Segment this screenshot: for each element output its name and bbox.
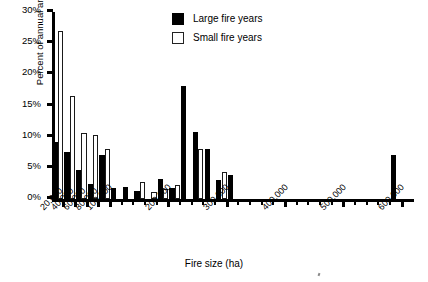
bar-small-240,000-260,000 <box>198 149 203 199</box>
bar-small-140,000-160,000 <box>140 182 145 199</box>
bar-small-20,000-40,000 <box>70 96 75 199</box>
fire-size-histogram: Percent of annual area burned 0%5%10%15%… <box>0 0 428 282</box>
y-tick-label: 15% <box>22 99 41 108</box>
x-axis-title: Fire size (ha) <box>0 258 428 269</box>
y-tick-label: 0% <box>27 192 41 201</box>
y-tick-10%: 10% <box>47 134 53 137</box>
bar-small-200,000-220,000 <box>175 185 180 199</box>
y-tick-20%: 20% <box>47 71 53 74</box>
y-tick-30%: 30% <box>47 9 53 12</box>
y-tick-15%: 15% <box>47 103 53 106</box>
y-axis-title-container: Percent of annual area burned <box>0 0 18 200</box>
bar-large-140,000-160,000 <box>134 191 139 199</box>
bar-large-120,000-140,000 <box>123 187 128 199</box>
x-tick-label-group: 20,00040,00060,00080,000100,000200,00030… <box>52 205 414 253</box>
x-axis-line <box>52 199 414 202</box>
legend-item-large-fire-years: Large fire years <box>172 9 262 28</box>
small-fire-swatch-icon <box>172 32 184 44</box>
large-fire-swatch-icon <box>172 13 184 25</box>
legend-label-small: Small fire years <box>193 32 262 44</box>
y-tick-label: 20% <box>22 67 41 76</box>
y-tick-label: 10% <box>22 130 41 139</box>
scan-artifact-speck <box>318 273 321 277</box>
bar-large-220,000-240,000 <box>181 86 186 199</box>
y-tick-label: 25% <box>22 36 41 45</box>
y-tick-label: 5% <box>27 161 41 170</box>
bar-small-0-20,000 <box>58 31 63 199</box>
bar-large-240,000-260,000 <box>193 132 198 199</box>
y-tick-label: 30% <box>22 5 41 14</box>
bar-large-260,000-280,000 <box>205 149 210 199</box>
legend-label-large: Large fire years <box>193 13 262 25</box>
legend-item-small-fire-years: Small fire years <box>172 28 262 47</box>
y-tick-5%: 5% <box>47 165 53 168</box>
y-tick-25%: 25% <box>47 40 53 43</box>
chart-legend: Large fire years Small fire years <box>172 9 262 47</box>
